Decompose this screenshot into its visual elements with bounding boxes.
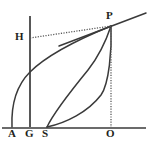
point-label-g: G [25, 128, 34, 139]
tangent-line-at-P [59, 13, 146, 46]
dotted-line-H-to-P [30, 26, 111, 38]
point-label-p: P [106, 10, 113, 21]
geometry-figure: A G S O H P [0, 0, 149, 146]
point-label-h: H [15, 31, 24, 42]
point-label-s: S [42, 128, 48, 139]
point-label-a: A [8, 128, 16, 139]
point-label-o: O [106, 128, 115, 139]
curve-S-to-P [47, 26, 111, 127]
figure-canvas [0, 0, 149, 146]
curve-A-to-P [12, 26, 111, 127]
